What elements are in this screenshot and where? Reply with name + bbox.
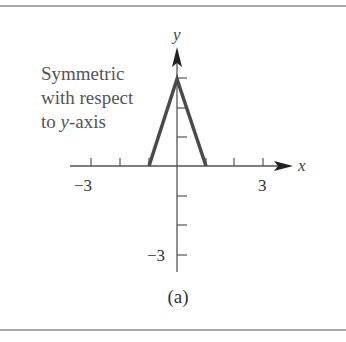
annotation-line-2: with respect — [41, 87, 134, 108]
x-tick-label-3: 3 — [258, 176, 267, 195]
annotation-line-3-suffix: -axis — [69, 111, 106, 132]
annotation-line-1: Symmetric — [41, 63, 124, 84]
y-axis-label: y — [171, 25, 181, 44]
y-tick-label-neg3: −3 — [147, 246, 165, 265]
panel-label: (a) — [167, 286, 188, 308]
annotation-line-3: to y-axis — [41, 111, 106, 132]
figure-panel: Symmetric with respect to y-axis x −3 3 … — [0, 0, 346, 342]
x-tick-label-neg3: −3 — [74, 176, 92, 195]
x-axis-label: x — [297, 156, 306, 175]
annotation-line-3-prefix: to — [41, 111, 61, 132]
graph-svg: Symmetric with respect to y-axis x −3 3 … — [0, 0, 346, 342]
annotation-italic-y: y — [59, 111, 70, 132]
